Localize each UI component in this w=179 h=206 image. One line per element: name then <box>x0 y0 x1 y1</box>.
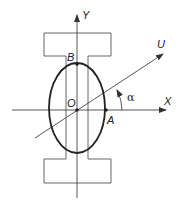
point-origin <box>75 108 79 112</box>
u-axis-label: U <box>157 38 165 50</box>
origin-label: O <box>67 97 76 109</box>
angle-arc <box>117 90 122 110</box>
point-a <box>104 108 108 112</box>
point-b <box>75 62 79 66</box>
point-b-label: B <box>67 51 74 63</box>
u-axis <box>35 54 163 138</box>
i-beam-outline <box>44 33 111 183</box>
y-axis-label: Y <box>82 9 90 21</box>
point-a-label: A <box>106 114 114 126</box>
x-axis-label: X <box>163 95 172 107</box>
angle-label: α <box>127 91 135 104</box>
diagram-canvas: Y X U O A B α <box>0 0 179 206</box>
